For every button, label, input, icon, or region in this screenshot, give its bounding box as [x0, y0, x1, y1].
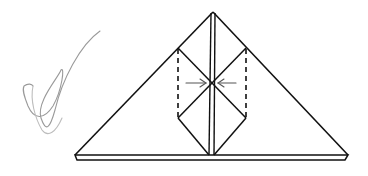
base-strip — [75, 155, 348, 160]
pen-scribble — [23, 31, 100, 134]
diagram-canvas — [0, 0, 368, 176]
inner-folds — [178, 48, 246, 155]
left-arrow-icon — [186, 79, 206, 87]
right-arrow-icon — [218, 79, 236, 87]
origami-diagram — [0, 0, 368, 176]
